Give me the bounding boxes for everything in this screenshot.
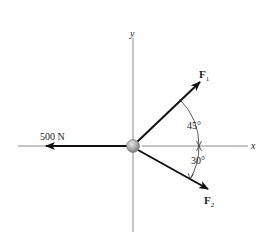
- force-diagram: y x 500 N F1 F2 45° 30°: [0, 0, 272, 241]
- particle-ball: [127, 140, 140, 153]
- y-axis-label: y: [129, 28, 135, 39]
- x-axis-label: x: [250, 140, 256, 151]
- angle-label-30: 30°: [191, 155, 205, 166]
- force-f2-label: F2: [204, 194, 215, 209]
- force-500n-label: 500 N: [40, 131, 65, 142]
- angle-label-45: 45°: [187, 120, 201, 131]
- force-f1-label: F1: [199, 68, 210, 83]
- force-f1-arrow: [137, 82, 200, 142]
